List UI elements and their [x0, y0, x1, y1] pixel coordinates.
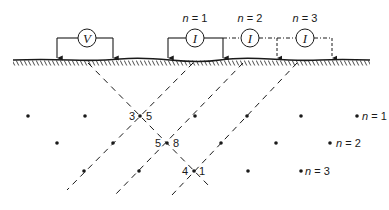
annotation-left: 3	[129, 110, 135, 122]
datum-point	[26, 114, 30, 118]
annotation-right: 8	[173, 137, 179, 149]
current-symbol: I	[302, 31, 308, 46]
current-source-n2: I n = 2	[223, 12, 277, 58]
datum-point	[274, 141, 278, 145]
datum-point	[328, 141, 332, 145]
datum-point	[219, 141, 223, 145]
pseudosection-row-n3: n = 3	[82, 165, 330, 177]
current-source-n3: I n = 3	[277, 12, 332, 58]
row-label-n2: n = 2	[336, 137, 361, 149]
datum-point	[299, 114, 303, 118]
row-label-n1: n = 1	[362, 110, 387, 122]
datum-point	[192, 169, 196, 173]
pseudosection-row-n2: n = 2	[55, 137, 361, 149]
annotation-left: 4	[182, 165, 188, 177]
n1-label: n = 1	[183, 12, 208, 24]
projection-line-n1	[67, 63, 193, 190]
dipole-dipole-diagram: V I n = 1 I n = 2 I n = 3	[0, 0, 389, 210]
n3-label: n = 3	[293, 12, 318, 24]
annotation-right: 5	[146, 110, 152, 122]
projection-line-n2	[115, 63, 243, 195]
datum-point	[82, 169, 86, 173]
datum-point	[83, 114, 87, 118]
pseudosection-row-n1: n = 1	[26, 110, 387, 122]
datum-point	[355, 114, 359, 118]
datum-point	[245, 114, 249, 118]
datum-point	[193, 114, 197, 118]
datum-point	[299, 169, 303, 173]
voltmeter: V	[57, 29, 113, 58]
projection-line-n3	[172, 63, 297, 195]
datum-point	[137, 169, 141, 173]
current-symbol: I	[247, 31, 253, 46]
datum-point	[111, 141, 115, 145]
datum-point	[55, 141, 59, 145]
projection-line-potential	[88, 63, 210, 187]
current-symbol: I	[192, 31, 198, 46]
n2-label: n = 2	[238, 12, 263, 24]
current-source-n1: I n = 1	[168, 12, 223, 58]
annotation-right: 1	[199, 165, 205, 177]
row-label-n3: n = 3	[305, 165, 330, 177]
datum-point	[138, 114, 142, 118]
datum-point	[165, 141, 169, 145]
datum-point	[246, 169, 250, 173]
annotation-left: 5	[155, 137, 161, 149]
